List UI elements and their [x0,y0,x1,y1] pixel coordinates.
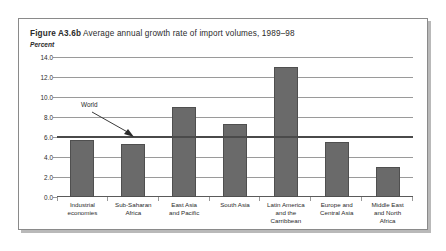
x-axis-category-label: Middle Eastand NorthAfrica [362,201,413,226]
x-axis-category-label: Europe andCentral Asia [311,201,362,226]
figure-panel: Figure A3.6b Average annual growth rate … [18,18,428,230]
world-annotation-label: World [81,101,98,108]
bar [70,140,94,197]
figure-title: Figure A3.6b Average annual growth rate … [30,29,295,38]
y-axis-tick-label: 14.0 [41,54,53,61]
x-axis-category-label: Industrialeconomies [57,201,108,226]
figure-number: Figure A3.6b [30,29,81,38]
x-axis-category-label: South Asia [210,201,261,226]
x-axis-category-label: Sub-SaharanAfrica [108,201,159,226]
figure-title-text: Average annual growth rate of import vol… [83,29,295,38]
y-axis-tick-label: 0.0 [44,194,53,201]
y-axis-tick-label: 4.0 [44,154,53,161]
bar-slot [311,57,362,197]
y-axis-unit-label: Percent [30,41,54,48]
bar-slot [159,57,210,197]
x-axis-category-labels: IndustrialeconomiesSub-SaharanAfricaEast… [57,201,413,226]
bar [274,67,298,197]
y-axis-tick-label: 2.0 [44,174,53,181]
y-axis-tick-label: 6.0 [44,134,53,141]
y-axis-tick-label: 10.0 [41,94,53,101]
bar-slot [260,57,311,197]
bar [121,144,145,197]
y-axis-tick-label: 12.0 [41,74,53,81]
bar-slot [210,57,261,197]
bar [325,142,349,197]
x-axis-category-label: East Asiaand Pacific [159,201,210,226]
x-axis-category-label: Latin Americaand theCarribbean [260,201,311,226]
y-axis-tick-label: 8.0 [44,114,53,121]
bar [172,107,196,197]
bar [223,124,247,197]
chart-plot-area: 0.02.04.06.08.010.012.014.0 World [57,57,413,197]
bar-slot [362,57,413,197]
world-arrow-icon [89,107,149,141]
bar [376,167,400,197]
